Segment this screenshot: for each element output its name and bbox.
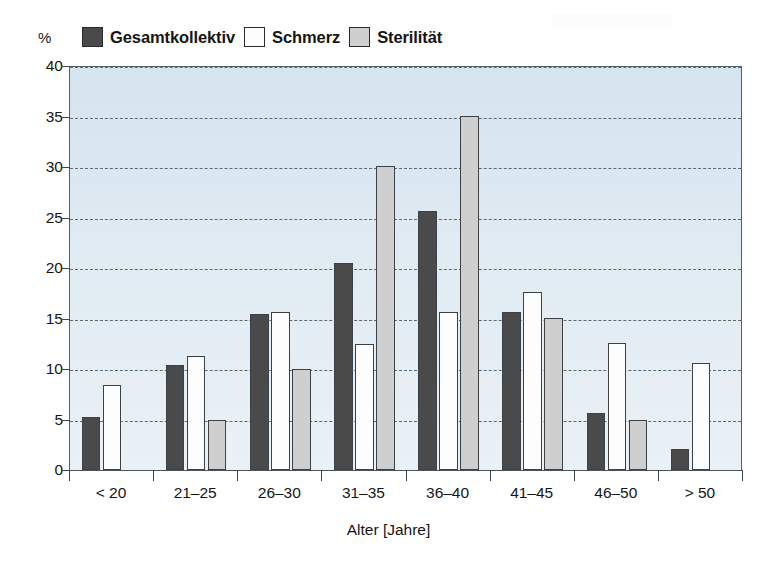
bar-gesamtkollektiv-2 bbox=[250, 314, 269, 470]
y-tick-label-5: 5 bbox=[33, 411, 63, 429]
legend-swatch-icon bbox=[349, 27, 370, 47]
x-tick-mark-5 bbox=[490, 470, 491, 481]
legend-label: Gesamtkollektiv bbox=[110, 28, 235, 47]
bar-gesamtkollektiv-6 bbox=[587, 413, 606, 470]
bar-schmerz-7 bbox=[692, 363, 711, 470]
bar-schmerz-1 bbox=[187, 356, 206, 470]
y-tick-label-30: 30 bbox=[33, 158, 63, 176]
bar-schmerz-4 bbox=[439, 312, 458, 470]
bar-sterilit-t-3 bbox=[376, 166, 395, 470]
bar-schmerz-5 bbox=[523, 292, 542, 470]
x-tick-mark-4 bbox=[406, 470, 407, 481]
x-tick-mark-edge-8 bbox=[742, 470, 743, 481]
bar-gesamtkollektiv-7 bbox=[671, 449, 690, 470]
y-tick-label-15: 15 bbox=[33, 310, 63, 328]
x-tick-mark-7 bbox=[658, 470, 659, 481]
bar-gesamtkollektiv-4 bbox=[418, 211, 437, 470]
x-tick-mark-edge-0 bbox=[69, 470, 70, 481]
x-tick-label-5: 41–45 bbox=[510, 484, 553, 502]
bar-sterilit-t-4 bbox=[460, 116, 479, 471]
legend-label: Schmerz bbox=[272, 28, 340, 47]
y-tick-label-20: 20 bbox=[33, 259, 63, 277]
x-tick-mark-2 bbox=[237, 470, 238, 481]
x-tick-mark-6 bbox=[574, 470, 575, 481]
x-tick-mark-1 bbox=[153, 470, 154, 481]
legend-swatch-icon bbox=[244, 27, 265, 47]
y-axis-tick-labels: 0510152025303540 bbox=[27, 0, 63, 562]
plot-area bbox=[69, 66, 742, 470]
legend-entry-gesamtkollektiv: Gesamtkollektiv bbox=[82, 27, 235, 47]
x-tick-label-3: 31–35 bbox=[342, 484, 385, 502]
legend-entry-sterilit-t: Sterilität bbox=[349, 27, 442, 47]
bar-schmerz-0 bbox=[103, 385, 122, 470]
legend-entry-schmerz: Schmerz bbox=[244, 27, 340, 47]
bar-gesamtkollektiv-0 bbox=[82, 417, 101, 470]
x-tick-label-4: 36–40 bbox=[426, 484, 469, 502]
bar-schmerz-3 bbox=[355, 344, 374, 470]
y-tick-label-35: 35 bbox=[33, 108, 63, 126]
x-tick-label-1: 21–25 bbox=[174, 484, 217, 502]
bars-layer bbox=[70, 67, 741, 470]
x-tick-label-0: < 20 bbox=[96, 484, 127, 502]
bar-gesamtkollektiv-1 bbox=[166, 365, 185, 470]
bar-schmerz-2 bbox=[271, 312, 290, 470]
x-tick-label-7: > 50 bbox=[685, 484, 716, 502]
legend-swatch-icon bbox=[82, 27, 103, 47]
x-tick-mark-3 bbox=[321, 470, 322, 481]
chart-legend: GesamtkollektivSchmerzSterilität bbox=[82, 26, 442, 48]
bar-gesamtkollektiv-3 bbox=[334, 263, 353, 470]
legend-label: Sterilität bbox=[377, 28, 442, 47]
x-axis-title: Alter [Jahre] bbox=[0, 521, 777, 539]
y-tick-label-40: 40 bbox=[33, 57, 63, 75]
scan-artifact bbox=[552, 14, 672, 28]
x-tick-label-2: 26–30 bbox=[258, 484, 301, 502]
bar-sterilit-t-1 bbox=[208, 420, 227, 471]
bar-sterilit-t-2 bbox=[292, 369, 311, 470]
y-tick-label-25: 25 bbox=[33, 209, 63, 227]
y-tick-label-0: 0 bbox=[33, 461, 63, 479]
y-tick-label-10: 10 bbox=[33, 360, 63, 378]
bar-sterilit-t-5 bbox=[544, 318, 563, 471]
x-tick-label-6: 46–50 bbox=[594, 484, 637, 502]
bar-sterilit-t-6 bbox=[629, 420, 648, 471]
bar-schmerz-6 bbox=[608, 343, 627, 470]
bar-gesamtkollektiv-5 bbox=[502, 312, 521, 470]
